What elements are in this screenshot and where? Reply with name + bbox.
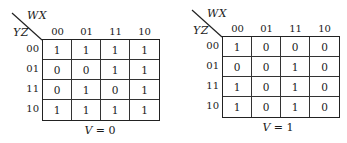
column-header: 01 xyxy=(252,23,281,34)
kmap-cell: 1 xyxy=(130,100,159,120)
column-header: 00 xyxy=(223,23,252,34)
row-header: 10 xyxy=(199,100,219,111)
kmap-cell: 0 xyxy=(252,57,281,77)
kmap-cell: 1 xyxy=(72,100,101,120)
row-variable-label: YZ xyxy=(193,24,209,37)
kmap-grid: 1 0 0 0 0 0 1 0 1 0 1 0 1 0 1 0 xyxy=(222,36,340,118)
row-header: 00 xyxy=(199,40,219,51)
kmap-cell: 1 xyxy=(43,40,72,60)
row-header: 11 xyxy=(199,80,219,91)
kmap-cell: 1 xyxy=(130,60,159,80)
kmap-cell: 1 xyxy=(101,40,130,60)
kmap-cell: 0 xyxy=(252,77,281,97)
kmap-cell: 1 xyxy=(72,40,101,60)
kmap-cell: 1 xyxy=(72,80,101,100)
kmap-cell: 1 xyxy=(43,100,72,120)
row-header: 11 xyxy=(19,83,39,94)
kmap-cell: 0 xyxy=(281,37,310,57)
kmap-cell: 1 xyxy=(223,37,252,57)
kmap-cell: 0 xyxy=(310,97,339,117)
kmap-cell: 1 xyxy=(281,57,310,77)
kmap-cell: 1 xyxy=(281,77,310,97)
kmap-cell: 0 xyxy=(252,37,281,57)
kmap-cell: 1 xyxy=(101,60,130,80)
caption-value: = 1 xyxy=(270,121,293,134)
column-header: 01 xyxy=(72,26,101,37)
kmap-cell: 0 xyxy=(43,80,72,100)
kmap-cell: 1 xyxy=(223,97,252,117)
column-header: 11 xyxy=(281,23,310,34)
kmap-grid: 1 1 1 1 0 0 1 1 0 1 0 1 1 1 1 1 xyxy=(42,39,160,121)
row-variable-label: YZ xyxy=(13,26,29,39)
row-header: 00 xyxy=(19,43,39,54)
kmap-cell: 0 xyxy=(310,77,339,97)
column-header: 10 xyxy=(310,23,339,34)
column-header: 11 xyxy=(101,26,130,37)
kmap-v0: WX YZ 00 01 11 10 00 01 11 10 1 1 1 1 0 … xyxy=(0,0,175,143)
kmap-cell: 0 xyxy=(223,57,252,77)
kmap-caption: V = 1 xyxy=(248,121,308,134)
kmap-cell: 0 xyxy=(101,80,130,100)
caption-value: = 0 xyxy=(92,124,115,137)
kmap-cell: 0 xyxy=(43,60,72,80)
kmap-cell: 1 xyxy=(281,97,310,117)
kmap-cell: 0 xyxy=(72,60,101,80)
column-variable-label: WX xyxy=(27,9,47,22)
column-header: 10 xyxy=(130,26,159,37)
kmap-cell: 0 xyxy=(310,57,339,77)
column-variable-label: WX xyxy=(207,7,227,20)
row-header: 10 xyxy=(19,103,39,114)
kmap-cell: 1 xyxy=(223,77,252,97)
kmap-cell: 1 xyxy=(130,80,159,100)
kmap-cell: 1 xyxy=(130,40,159,60)
row-header: 01 xyxy=(199,60,219,71)
kmap-cell: 0 xyxy=(252,97,281,117)
row-header: 01 xyxy=(19,63,39,74)
column-header: 00 xyxy=(43,26,72,37)
kmap-caption: V = 0 xyxy=(70,124,130,137)
kmap-v1: WX YZ 00 01 11 10 00 01 11 10 1 0 0 0 0 … xyxy=(180,0,347,143)
kmap-cell: 0 xyxy=(310,37,339,57)
kmap-cell: 1 xyxy=(101,100,130,120)
